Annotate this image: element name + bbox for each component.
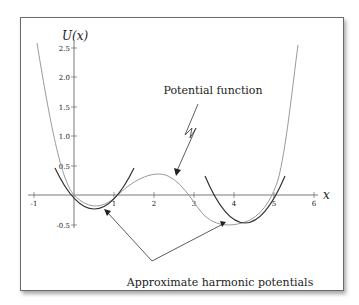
y-tick-label: 2.5 — [59, 45, 70, 53]
y-tick-label: 1.5 — [59, 104, 70, 112]
y-tick-label: 2.0 — [59, 74, 70, 82]
x-axis-title: x — [323, 188, 330, 202]
x-tick-label: -1 — [31, 200, 38, 208]
harmonic-approx-left — [55, 168, 134, 209]
x-tick-label: 6 — [312, 200, 317, 208]
x-tick-label: 1 — [112, 200, 116, 208]
x-tick-label: 4 — [232, 200, 237, 208]
y-tick-label: -0.5 — [57, 222, 71, 230]
arrows-to-harmonic-icon — [104, 209, 226, 261]
arrow-to-potential-icon — [174, 104, 198, 176]
harmonic-approx-right — [205, 176, 285, 223]
potential-curve — [37, 43, 298, 225]
potential-plot: -1 1 2 3 4 5 6 -0.5 0.5 1.0 1.5 2.0 2.5 … — [0, 0, 359, 305]
y-tick-label: 1.0 — [59, 133, 70, 141]
annotation-potential-function: Potential function — [163, 84, 262, 97]
x-tick-label: 2 — [152, 200, 156, 208]
annotation-harmonic-potentials: Approximate harmonic potentials — [126, 276, 314, 289]
y-axis-title: U(x) — [62, 29, 89, 43]
